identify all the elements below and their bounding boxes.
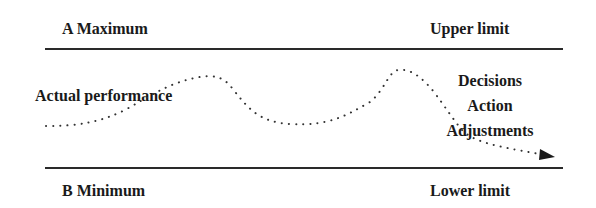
minimum-label: B Minimum — [62, 183, 145, 199]
lower-limit-label: Lower limit — [430, 183, 510, 199]
arrowhead-icon — [539, 149, 555, 160]
performance-curve — [0, 0, 596, 208]
lower-limit-line — [45, 167, 563, 169]
dotted-performance-path — [46, 70, 540, 154]
